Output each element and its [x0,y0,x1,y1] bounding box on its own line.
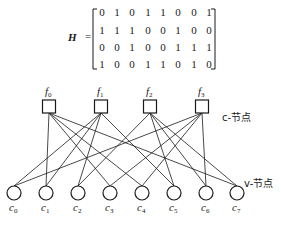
matrix-cell: 1 [99,24,105,36]
matrix-cell: 1 [191,58,197,70]
variable-node-label: c0 [9,201,18,215]
check-node-square [144,100,157,113]
variable-node: c3 [103,186,117,215]
variable-node: c2 [71,186,85,215]
variable-node: c1 [39,186,53,215]
variable-node-label: c7 [232,201,241,215]
variable-node-label: c2 [73,201,82,215]
matrix-cell: 1 [145,58,151,70]
check-node: f3 [196,85,209,113]
check-node-label: f3 [198,85,205,99]
variable-nodes: c0c1c2c3c4c5c6c7 [7,186,244,215]
check-node-square [43,100,56,113]
matrix-cell: 0 [99,6,105,18]
variable-node-circle [199,186,213,200]
parity-check-matrix: H = 01011001111001000010011110011010 [67,6,215,70]
variable-node-label: c1 [41,201,50,215]
variable-node: c6 [199,186,213,215]
check-node-square [95,100,108,113]
matrix-cell: 1 [145,6,151,18]
matrix-cell: 1 [129,41,135,53]
matrix-cell: 0 [145,24,151,36]
variable-node-circle [39,186,53,200]
matrix-cell: 1 [160,58,166,70]
matrix-cell: 0 [175,58,181,70]
variable-node-label: c3 [105,201,114,215]
variable-node-circle [230,186,244,200]
edge [46,113,49,186]
variable-node: c0 [7,186,21,215]
matrix-cell: 1 [206,41,212,53]
matrix-cell: 1 [175,41,181,53]
matrix-cell: 1 [191,41,197,53]
check-node: f2 [144,85,157,113]
variable-node: c5 [167,186,181,215]
matrix-equals: = [85,30,91,42]
edge [78,113,150,186]
matrix-cell: 0 [129,6,135,18]
variable-node-circle [167,186,181,200]
variable-node-circle [7,186,21,200]
edge [110,113,202,186]
graph-edges [14,113,237,186]
edge [49,113,237,186]
variable-node-label: c6 [201,201,210,215]
edge [46,113,101,186]
matrix-cell: 1 [160,6,166,18]
variable-node: c7 [230,186,244,215]
edge [49,113,110,186]
variable-node-circle [103,186,117,200]
check-node-label: f2 [146,85,153,99]
matrix-cell: 0 [191,6,197,18]
matrix-cell: 1 [114,24,120,36]
matrix-cell: 0 [191,24,197,36]
check-node-label: f1 [97,85,104,99]
variable-node-label: c4 [137,201,146,215]
left-bracket [93,9,97,69]
check-nodes: f0f1f2f3 [43,85,209,113]
matrix-cell: 1 [175,24,181,36]
edge [150,113,174,186]
matrix-cell: 0 [160,24,166,36]
edge [49,113,142,186]
matrix-cell: 0 [160,41,166,53]
edge [14,113,202,186]
matrix-cell: 1 [114,6,120,18]
variable-node-group-label: v-节点 [244,178,273,189]
matrix-cell: 0 [175,6,181,18]
variable-node-label: c5 [169,201,178,215]
variable-node-circle [71,186,85,200]
check-node: f1 [95,85,108,113]
matrix-cell: 1 [206,6,212,18]
variable-node-circle [135,186,149,200]
tanner-graph-diagram: H = 01011001111001000010011110011010 f0f… [0,0,281,226]
matrix-cell: 1 [99,58,105,70]
matrix-cell: 0 [206,24,212,36]
edge [202,113,206,186]
check-node-label: f0 [45,85,52,99]
matrix-cell: 0 [206,58,212,70]
variable-node: c4 [135,186,149,215]
check-node: f0 [43,85,56,113]
check-node-square [196,100,209,113]
check-node-group-label: c-节点 [222,112,251,123]
matrix-cell: 0 [145,41,151,53]
edge [14,113,101,186]
matrix-cell: 0 [129,58,135,70]
edge [78,113,101,186]
matrix-label: H [67,31,77,43]
matrix-cell: 0 [99,41,105,53]
matrix-cell: 0 [114,58,120,70]
matrix-cell: 1 [129,24,135,36]
edge [150,113,206,186]
matrix-cell: 0 [114,41,120,53]
matrix-cells: 01011001111001000010011110011010 [99,6,212,70]
